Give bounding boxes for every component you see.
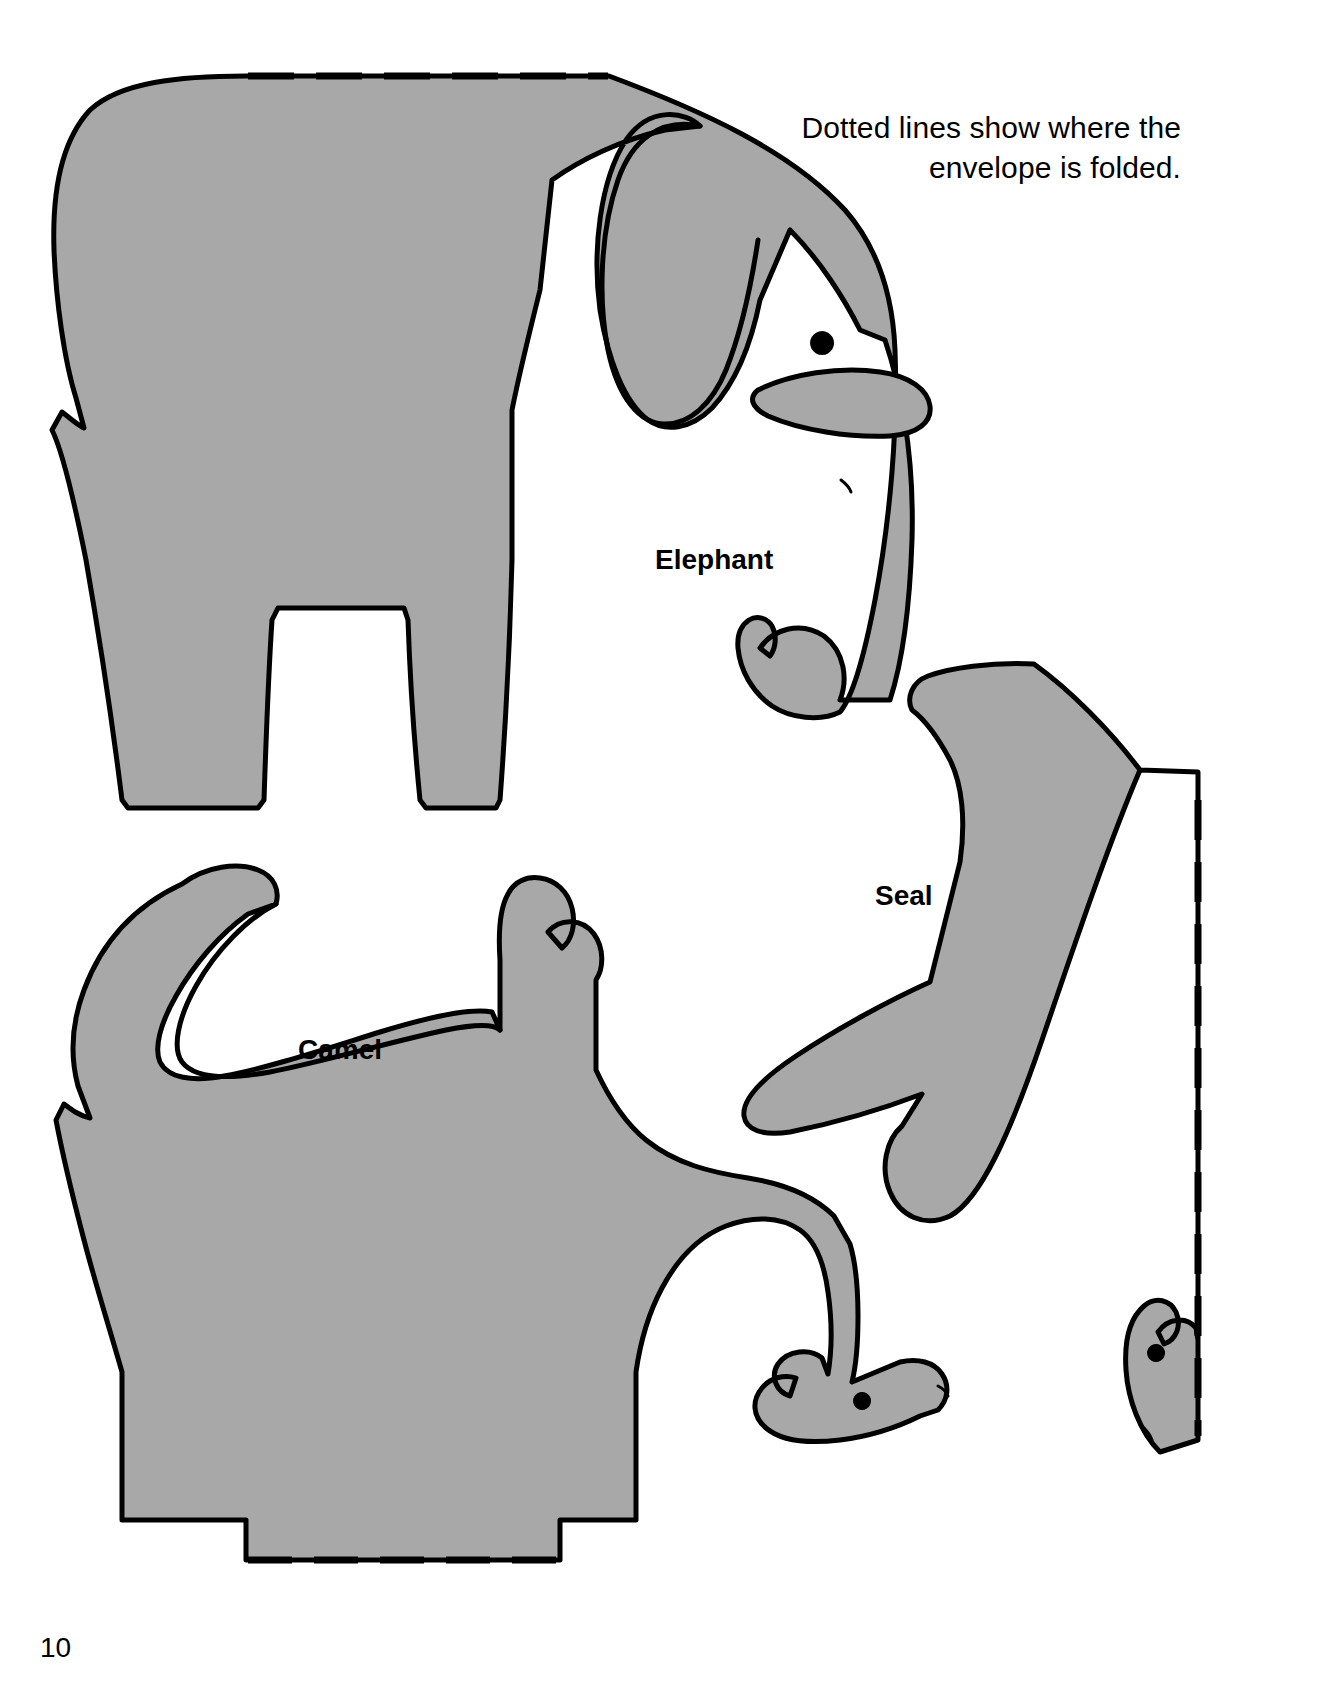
elephant-trunk bbox=[753, 370, 931, 436]
craft-template-page: Dotted lines show where the envelope is … bbox=[0, 0, 1339, 1703]
elephant-tusk-mark bbox=[841, 480, 851, 492]
shape-label-seal: Seal bbox=[875, 880, 933, 912]
seal-eye bbox=[1147, 1344, 1165, 1362]
page-number: 10 bbox=[40, 1632, 71, 1664]
animal-template-artboard bbox=[0, 0, 1339, 1703]
elephant-eye bbox=[810, 331, 834, 355]
seal-silhouette bbox=[744, 664, 1198, 1452]
shape-label-elephant: Elephant bbox=[655, 544, 773, 576]
fold-instructions-caption: Dotted lines show where the envelope is … bbox=[751, 108, 1181, 188]
shape-label-camel: Camel bbox=[298, 1034, 382, 1066]
camel-silhouette bbox=[56, 866, 947, 1560]
seal-shape bbox=[744, 664, 1198, 1452]
camel-eye bbox=[853, 1392, 871, 1410]
camel-shape bbox=[56, 866, 948, 1560]
